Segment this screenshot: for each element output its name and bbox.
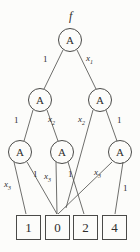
node-label: A (66, 35, 74, 46)
node-label: A (16, 147, 24, 158)
diagram-node-L3b[interactable]: A (50, 140, 74, 164)
node-label: A (116, 147, 124, 158)
diagram-leaf-leaf2[interactable]: 2 (73, 215, 98, 240)
edge-label-subscript: 1 (90, 59, 93, 65)
leaf-value: 0 (54, 221, 61, 234)
function-label: f (69, 10, 72, 22)
diagram-leaf-leaf1[interactable]: 1 (16, 215, 41, 240)
node-label: A (58, 147, 66, 158)
edge-label-subscript: 2 (82, 120, 85, 126)
diagram-node-L3c[interactable]: A (108, 140, 132, 164)
edge-label-lbl-L3a-right: 1 (33, 170, 38, 179)
diagram-edge (56, 162, 57, 214)
diagram-node-L2b[interactable]: A (88, 88, 112, 112)
edge-label-lbl-root-right: x1 (86, 54, 93, 65)
edge-label-lbl-L3c-right: 1 (123, 184, 128, 193)
node-label: A (36, 95, 44, 106)
edge-label-lbl-L2a-left: 1 (14, 116, 19, 125)
diagram-leaf-leaf0[interactable]: 0 (45, 215, 70, 240)
decision-diagram-canvas: AAAAAA 1024 1x11x2x21x31x31x31 f (0, 0, 140, 252)
edge-label-subscript: 3 (48, 177, 51, 183)
edge-label-text: 1 (14, 115, 19, 125)
leaf-value: 2 (82, 221, 89, 234)
diagram-node-root[interactable]: A (58, 28, 82, 52)
diagram-edge (27, 162, 57, 214)
edge-label-lbl-L3b-left: x3 (44, 172, 51, 183)
edge-label-subscript: 3 (8, 185, 11, 191)
edge-label-lbl-L3b-right: 1 (68, 170, 73, 179)
edge-label-lbl-L2b-left: x2 (78, 115, 85, 126)
edge-label-lbl-L3a-left: x3 (4, 180, 11, 191)
node-label: A (96, 95, 104, 106)
diagram-edge (24, 110, 33, 141)
diagram-leaf-leaf4[interactable]: 4 (102, 215, 127, 240)
diagram-edge (14, 162, 26, 214)
edge-label-subscript: 3 (98, 173, 101, 179)
edge-label-lbl-L3c-left: x3 (94, 168, 101, 179)
edge-label-lbl-L2a-right: x2 (48, 115, 55, 126)
edge-label-lbl-L2b-right: 1 (117, 116, 122, 125)
leaf-value: 1 (25, 221, 32, 234)
leaf-value: 4 (111, 221, 118, 234)
edge-label-text: 1 (68, 169, 73, 179)
edge-label-text: 1 (117, 115, 122, 125)
edge-label-text: 1 (123, 183, 128, 193)
edge-label-text: 1 (33, 169, 38, 179)
diagram-edge (115, 162, 123, 214)
diagram-edge (58, 162, 112, 214)
diagram-node-L3a[interactable]: A (8, 140, 32, 164)
diagram-edge (106, 110, 117, 141)
edge-label-subscript: 2 (52, 120, 55, 126)
edge-label-lbl-root-left: 1 (43, 55, 48, 64)
diagram-node-L2a[interactable]: A (28, 88, 52, 112)
edge-label-text: 1 (43, 54, 48, 64)
